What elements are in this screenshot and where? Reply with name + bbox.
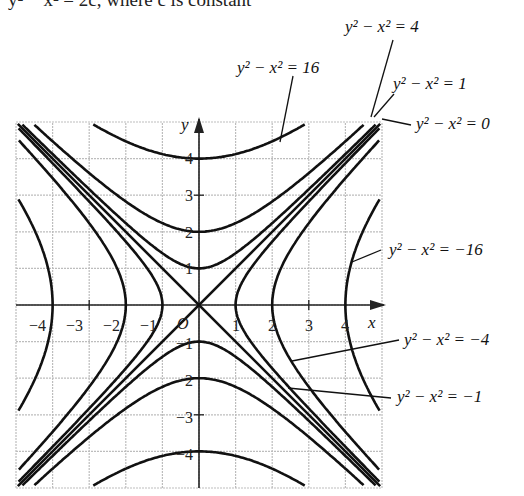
y-tick-label: −2 — [176, 372, 193, 389]
y-tick-label: −3 — [176, 409, 193, 426]
y-tick-label: 4 — [185, 150, 193, 167]
x-tick-label: −1 — [140, 317, 157, 334]
y-tick-labels: 4 3 2 1 −1 −2 −3 −4 — [176, 150, 193, 463]
leader-km16 — [352, 250, 381, 262]
x-tick-labels: −4 −3 −2 −1 1 2 3 4 — [29, 317, 349, 334]
x-tick-label: 3 — [305, 317, 313, 334]
x-tick-label: 4 — [341, 317, 349, 334]
leader-km1 — [288, 388, 391, 398]
label-k4: y² − x² = 4 — [343, 17, 419, 36]
label-km4: y² − x² = −4 — [402, 330, 490, 349]
label-k0: y² − x² = 0 — [414, 114, 490, 133]
label-k16: y² − x² = 16 — [235, 58, 320, 77]
y-tick-label: 3 — [185, 187, 193, 204]
label-km16: y² − x² = −16 — [387, 240, 483, 259]
y-tick-label: −4 — [176, 446, 193, 463]
leader-k0 — [382, 119, 411, 125]
y-tick-label: 2 — [185, 224, 193, 241]
label-k1: y² − x² = 1 — [391, 74, 467, 93]
y-tick-label: −1 — [176, 335, 193, 352]
x-tick-label: −4 — [29, 317, 46, 334]
y-axis-arrow-icon — [194, 117, 204, 133]
x-tick-label: −2 — [103, 317, 120, 334]
x-tick-label: 2 — [268, 317, 276, 334]
x-tick-label: 1 — [232, 317, 240, 334]
x-tick-label: −3 — [66, 317, 83, 334]
x-axis-label: x — [367, 313, 376, 332]
label-km1: y² − x² = −1 — [395, 387, 482, 406]
origin-label: O — [177, 315, 189, 332]
leader-k4 — [371, 40, 393, 117]
hyperbola-figure: −4 −3 −2 −1 1 2 3 4 4 3 2 1 −1 −2 −3 −4 … — [0, 0, 524, 496]
y-tick-label: 1 — [185, 260, 193, 277]
y-axis-label: y — [179, 115, 189, 134]
x-axis-arrow-icon — [370, 300, 386, 310]
